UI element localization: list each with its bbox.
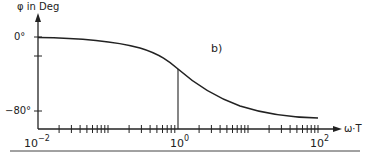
y-axis-label: φ in Deg — [17, 1, 59, 12]
x-tick-label-1e2: 102 — [310, 135, 329, 150]
y-tick-label-0: 0° — [14, 31, 25, 42]
phase-plot — [0, 0, 369, 153]
y-axis-arrow-icon — [35, 13, 41, 22]
x-tick-label-1e-2: 10−2 — [24, 135, 50, 150]
x-axis-label: ω·T — [344, 123, 362, 134]
x-axis-arrow-icon — [333, 126, 342, 132]
y-tick-label-minus80: −80° — [5, 105, 31, 116]
plot-annotation: b) — [211, 42, 222, 55]
x-tick-label-1e0: 100 — [170, 135, 189, 150]
